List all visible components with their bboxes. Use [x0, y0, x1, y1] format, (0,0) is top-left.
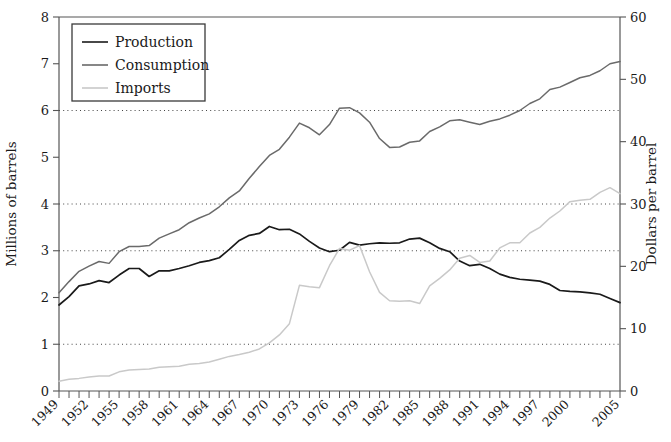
x-tick-label-1967: 1967 [208, 396, 241, 429]
y-tick-label-3: 3 [41, 243, 49, 258]
x-tick-label-1997: 1997 [509, 396, 542, 429]
x-tick-label-1952: 1952 [58, 397, 91, 430]
x-tick-label-1964: 1964 [178, 396, 211, 429]
x-tick-label-1970: 1970 [238, 396, 271, 429]
x-tick-label-1991: 1991 [449, 397, 482, 430]
y-tick-label-7: 7 [41, 56, 49, 71]
y-tick-label-4: 4 [41, 197, 49, 212]
y2-tick-label-10: 10 [630, 321, 647, 336]
x-tick-label-2000: 2000 [539, 396, 572, 429]
y-tick-label-6: 6 [41, 103, 49, 118]
x-tick-label-1961: 1961 [148, 397, 181, 430]
y2-tick-label-60: 60 [630, 10, 647, 25]
x-tick-label-2005: 2005 [589, 397, 622, 430]
series-line-imports [59, 188, 620, 382]
y-tick-label-5: 5 [41, 150, 49, 165]
legend-label-imports: Imports [115, 80, 171, 96]
chart-canvas: 0123456780102030405060194919521955195819… [0, 0, 671, 442]
y-tick-label-0: 0 [41, 384, 49, 399]
y2-tick-label-50: 50 [630, 72, 647, 87]
y-axis-title: Millions of barrels [3, 141, 19, 266]
y2-axis-title: Dollars per barrel [643, 143, 659, 266]
x-tick-label-1985: 1985 [389, 397, 422, 430]
y-tick-label-2: 2 [41, 290, 49, 305]
x-tick-label-1949: 1949 [28, 396, 61, 429]
x-tick-label-1982: 1982 [359, 397, 392, 430]
y-tick-label-8: 8 [41, 10, 49, 25]
x-tick-label-1994: 1994 [479, 396, 512, 429]
legend-label-consumption: Consumption [115, 57, 209, 73]
series-line-production [59, 226, 620, 305]
y2-tick-label-0: 0 [630, 384, 638, 399]
legend-label-production: Production [115, 34, 193, 50]
x-tick-label-1955: 1955 [88, 397, 121, 430]
x-tick-label-1973: 1973 [268, 396, 301, 429]
x-tick-label-1976: 1976 [299, 396, 332, 429]
x-tick-label-1958: 1958 [118, 396, 151, 429]
y-tick-label-1: 1 [41, 337, 49, 352]
oil-production-consumption-imports-chart: 0123456780102030405060194919521955195819… [0, 0, 671, 442]
x-tick-label-1979: 1979 [329, 396, 362, 429]
x-tick-label-1988: 1988 [419, 396, 452, 429]
